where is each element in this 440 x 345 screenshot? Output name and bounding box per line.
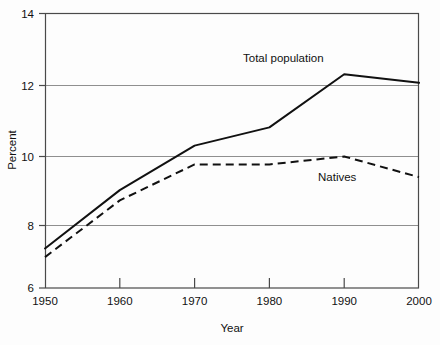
y-tick-label-12: 12 [21, 80, 34, 92]
x-tick-label-1980: 1980 [257, 295, 283, 307]
x-axis-tick-labels: 1950 1960 1970 1980 1990 2000 [32, 295, 432, 307]
chart-figure: 14 12 10 8 6 1950 1960 1970 1980 1990 20… [0, 0, 440, 345]
plot-frame [46, 14, 419, 289]
y-tick-label-8: 8 [28, 220, 34, 232]
annotation-total-population: Total population [243, 52, 324, 64]
x-tick-label-1970: 1970 [182, 295, 208, 307]
x-axis-label: Year [220, 322, 243, 334]
x-tick-label-1960: 1960 [107, 295, 133, 307]
y-tick-label-6: 6 [28, 282, 34, 294]
annotation-natives: Natives [318, 171, 357, 183]
line-chart: 14 12 10 8 6 1950 1960 1970 1980 1990 20… [0, 0, 440, 345]
x-tick-label-1990: 1990 [331, 295, 357, 307]
y-axis-label: Percent [6, 129, 18, 169]
y-tick-label-10: 10 [21, 151, 34, 163]
y-tick-label-14: 14 [21, 8, 34, 20]
y-axis-ticks [39, 14, 45, 289]
series-total-population [45, 74, 419, 248]
series-natives [45, 157, 419, 258]
x-axis-ticks [120, 278, 344, 288]
y-axis-tick-labels: 14 12 10 8 6 [21, 8, 34, 294]
x-tick-label-1950: 1950 [32, 295, 58, 307]
x-tick-label-2000: 2000 [406, 295, 432, 307]
